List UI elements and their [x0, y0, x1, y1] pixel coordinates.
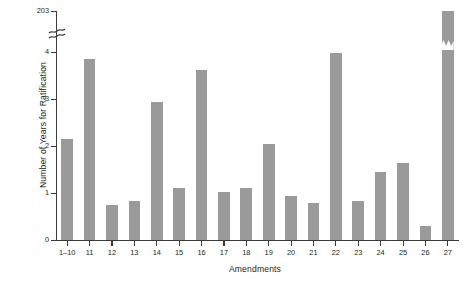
y-axis-tick [51, 193, 57, 194]
x-axis-line [56, 240, 459, 241]
x-axis-tick [156, 241, 157, 246]
y-axis-tick-label: 1 [4, 189, 49, 196]
bar [173, 188, 185, 240]
x-axis-tick [447, 241, 448, 246]
bar [151, 102, 163, 240]
x-axis-tick [291, 241, 292, 246]
bar [263, 144, 275, 240]
bar [375, 172, 387, 240]
bar [84, 59, 96, 240]
y-axis-tick [51, 11, 57, 12]
bar [420, 226, 432, 240]
bar [240, 188, 252, 240]
bar [218, 192, 230, 240]
bar [129, 201, 141, 240]
x-axis-tick [313, 241, 314, 246]
x-axis-tick [268, 241, 269, 246]
bar [285, 196, 297, 240]
x-axis-tick [179, 241, 180, 246]
bar [106, 205, 118, 240]
x-axis-tick [111, 241, 112, 246]
y-axis-tick [51, 99, 57, 100]
x-axis-tick [223, 241, 224, 246]
y-axis-tick-label: 0 [4, 236, 49, 243]
x-axis-title: Amendments [55, 264, 455, 274]
x-axis-tick-label: 27 [428, 249, 468, 256]
bar [352, 201, 364, 240]
bar [308, 203, 320, 240]
y-axis-tick [51, 240, 57, 241]
x-axis-tick [380, 241, 381, 246]
y-axis-tick-label: 3 [4, 95, 49, 102]
y-axis-break-icon [47, 22, 67, 44]
y-axis-tick-label: 2 [4, 142, 49, 149]
y-axis-tick-label: 203 [4, 7, 49, 14]
y-axis-tick-label: 4 [4, 48, 49, 55]
bar [196, 70, 208, 240]
bar [330, 53, 342, 240]
bar [397, 163, 409, 240]
y-axis-tick [51, 146, 57, 147]
y-axis-tick [51, 52, 57, 53]
x-axis-tick [246, 241, 247, 246]
x-axis-tick [358, 241, 359, 246]
x-axis-tick [67, 241, 68, 246]
bar-break-icon [441, 38, 454, 50]
x-axis-tick [134, 241, 135, 246]
x-axis-tick [335, 241, 336, 246]
x-axis-tick [89, 241, 90, 246]
chart-figure: Number of Years for Ratification Amendme… [0, 0, 473, 287]
y-axis-line [56, 11, 57, 241]
x-axis-tick [403, 241, 404, 246]
bar [61, 139, 73, 240]
x-axis-tick [425, 241, 426, 246]
x-axis-tick [201, 241, 202, 246]
